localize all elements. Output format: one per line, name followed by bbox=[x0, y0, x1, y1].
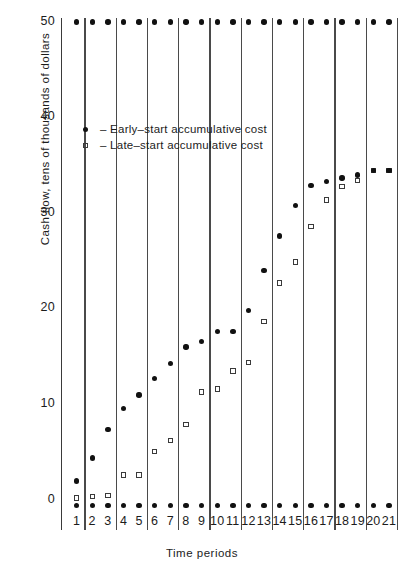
data-point-filled-circle bbox=[74, 478, 79, 483]
data-point-filled-circle bbox=[371, 168, 376, 173]
data-point-filled-circle bbox=[199, 339, 204, 344]
data-point-filled-circle bbox=[215, 503, 220, 508]
data-point-filled-circle bbox=[277, 503, 282, 508]
data-point-filled-circle bbox=[183, 19, 188, 24]
data-point-filled-circle bbox=[136, 392, 141, 397]
data-point-filled-circle bbox=[324, 179, 329, 184]
y-axis-tick-label: 0 bbox=[25, 492, 55, 506]
data-point-filled-circle bbox=[246, 308, 251, 313]
y-axis-tick-label: 30 bbox=[25, 205, 55, 219]
data-point-filled-circle bbox=[386, 19, 391, 24]
data-point-filled-circle bbox=[339, 175, 344, 180]
data-point-open-square bbox=[152, 449, 157, 454]
data-point-open-square bbox=[246, 360, 251, 365]
data-point-filled-circle bbox=[324, 503, 329, 508]
data-point-filled-circle bbox=[152, 503, 157, 508]
y-axis-tick-label: 10 bbox=[25, 396, 55, 410]
data-point-filled-circle bbox=[371, 19, 376, 24]
y-axis-tick-label: 20 bbox=[25, 300, 55, 314]
data-point-filled-circle bbox=[355, 19, 360, 24]
data-point-filled-circle bbox=[90, 503, 95, 508]
data-point-filled-circle bbox=[105, 19, 110, 24]
data-point-open-square bbox=[215, 386, 220, 391]
data-point-filled-circle bbox=[339, 19, 344, 24]
data-point-filled-circle bbox=[199, 503, 204, 508]
data-point-filled-circle bbox=[386, 503, 391, 508]
y-axis-tick-label: 50 bbox=[25, 14, 55, 28]
data-point-filled-circle bbox=[277, 19, 282, 24]
legend-label-late-start: – Late–start accumulative cost bbox=[100, 139, 263, 151]
data-point-open-square bbox=[199, 389, 204, 394]
data-point-open-square bbox=[168, 438, 173, 443]
data-point-filled-circle bbox=[293, 19, 298, 24]
data-point-filled-circle bbox=[74, 19, 79, 24]
y-axis-title: Cash flow, tens of thousands of dollars bbox=[39, 0, 51, 279]
cash-flow-scatter-chart: Cash flow, tens of thousands of dollars … bbox=[0, 0, 404, 573]
data-point-filled-circle bbox=[386, 168, 391, 173]
legend-entry-early-start: – Early–start accumulative cost bbox=[83, 122, 267, 138]
data-point-filled-circle bbox=[215, 329, 220, 334]
data-point-filled-circle bbox=[293, 503, 298, 508]
data-point-open-square bbox=[355, 178, 360, 183]
chart-legend: – Early–start accumulative cost – Late–s… bbox=[83, 122, 267, 153]
data-point-open-square bbox=[183, 422, 188, 427]
data-point-filled-circle bbox=[136, 19, 141, 24]
legend-label-early-start: – Early–start accumulative cost bbox=[100, 123, 267, 135]
data-point-filled-circle bbox=[308, 183, 313, 188]
data-point-filled-circle bbox=[230, 329, 235, 334]
data-point-filled-circle bbox=[136, 503, 141, 508]
data-point-filled-circle bbox=[105, 503, 110, 508]
data-point-filled-circle bbox=[355, 503, 360, 508]
data-point-filled-circle bbox=[199, 19, 204, 24]
data-point-filled-circle bbox=[230, 503, 235, 508]
data-point-open-square bbox=[277, 280, 282, 285]
filled-circle-icon bbox=[83, 127, 88, 132]
data-point-filled-circle bbox=[246, 503, 251, 508]
data-point-filled-circle bbox=[215, 19, 220, 24]
data-point-filled-circle bbox=[90, 19, 95, 24]
data-point-open-square bbox=[90, 494, 95, 499]
data-point-filled-circle bbox=[324, 19, 329, 24]
data-point-filled-circle bbox=[183, 344, 188, 349]
data-point-filled-circle bbox=[339, 503, 344, 508]
data-point-open-square bbox=[230, 368, 235, 373]
data-point-filled-circle bbox=[168, 503, 173, 508]
data-point-filled-circle bbox=[168, 19, 173, 24]
data-point-filled-circle bbox=[105, 427, 110, 432]
data-point-open-square bbox=[308, 224, 313, 229]
data-point-filled-circle bbox=[74, 503, 79, 508]
data-point-filled-circle bbox=[261, 503, 266, 508]
data-point-filled-circle bbox=[277, 233, 282, 238]
data-point-open-square bbox=[324, 197, 329, 202]
open-square-icon bbox=[83, 143, 88, 148]
data-point-open-square bbox=[261, 319, 266, 324]
data-point-open-square bbox=[293, 259, 298, 264]
data-point-filled-circle bbox=[152, 19, 157, 24]
data-point-filled-circle bbox=[183, 503, 188, 508]
data-point-filled-circle bbox=[121, 19, 126, 24]
data-point-filled-circle bbox=[121, 503, 126, 508]
data-point-open-square bbox=[74, 495, 79, 500]
data-point-filled-circle bbox=[308, 503, 313, 508]
data-point-open-square bbox=[121, 472, 126, 477]
data-point-filled-circle bbox=[90, 455, 95, 460]
data-point-filled-circle bbox=[355, 172, 360, 177]
data-point-filled-circle bbox=[261, 268, 266, 273]
data-point-filled-circle bbox=[261, 19, 266, 24]
x-axis-tick-label: 21 bbox=[378, 514, 400, 528]
data-point-filled-circle bbox=[121, 406, 126, 411]
data-point-filled-circle bbox=[308, 19, 313, 24]
data-point-filled-circle bbox=[371, 503, 376, 508]
data-point-open-square bbox=[105, 493, 110, 498]
data-point-filled-circle bbox=[293, 203, 298, 208]
data-point-open-square bbox=[136, 472, 141, 477]
x-axis-title: Time periods bbox=[0, 547, 404, 559]
data-point-open-square bbox=[339, 184, 344, 189]
y-axis-tick-label: 40 bbox=[25, 109, 55, 123]
data-point-filled-circle bbox=[168, 361, 173, 366]
plot-area bbox=[61, 20, 403, 508]
legend-entry-late-start: – Late–start accumulative cost bbox=[83, 138, 267, 154]
data-point-filled-circle bbox=[230, 19, 235, 24]
data-point-filled-circle bbox=[152, 376, 157, 381]
data-point-filled-circle bbox=[246, 19, 251, 24]
